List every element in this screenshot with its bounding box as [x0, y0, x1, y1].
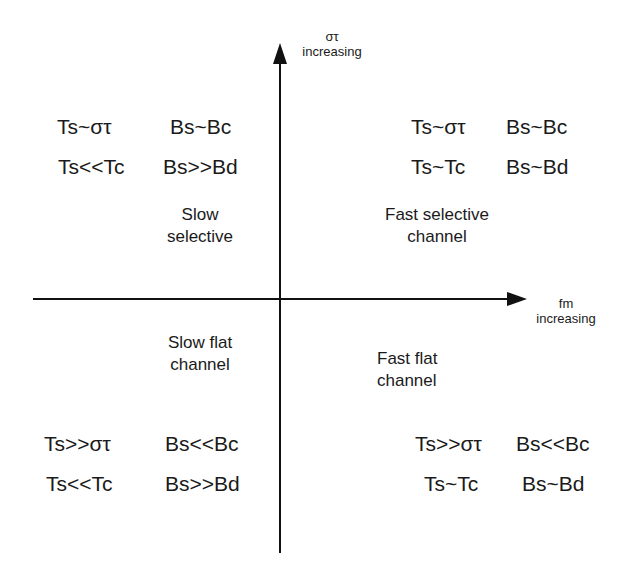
quadrant-title: Slow flat channel [140, 332, 260, 376]
ts-relation: Ts<<Tc [58, 156, 125, 177]
title-line: channel [362, 226, 512, 248]
ts-relation: Ts~στ [57, 116, 112, 137]
x-axis-text: increasing [526, 311, 606, 326]
bs-relation: Bs~Bd [522, 473, 584, 494]
x-axis-label: fm increasing [526, 296, 606, 326]
bs-relation: Bs>>Bd [165, 473, 240, 494]
y-axis-label: στ increasing [293, 29, 371, 59]
bs-relation: Bs<<Bc [165, 433, 239, 454]
bs-relation: Bs~Bc [170, 116, 231, 137]
quadrant-title: Fast selective channel [362, 204, 512, 248]
title-line: Slow flat [140, 332, 260, 354]
ts-relation: Ts<<Tc [46, 473, 113, 494]
title-line: Fast selective [362, 204, 512, 226]
y-axis-arrow-icon [273, 43, 287, 64]
title-line: Fast flat [377, 348, 467, 370]
ts-relation: Ts~Tc [424, 473, 478, 494]
title-line: channel [140, 354, 260, 376]
y-axis-symbol: στ [293, 29, 371, 44]
bs-relation: Bs>>Bd [163, 156, 238, 177]
ts-relation: Ts>>στ [44, 433, 111, 454]
x-axis-symbol: fm [526, 296, 606, 311]
quadrant-title: Slow selective [145, 204, 255, 248]
bs-relation: Bs~Bd [506, 156, 568, 177]
title-line: Slow [145, 204, 255, 226]
bs-relation: Bs~Bc [506, 116, 567, 137]
bs-relation: Bs<<Bc [516, 433, 590, 454]
quadrant-title: Fast flat channel [377, 348, 467, 392]
title-line: selective [145, 226, 255, 248]
ts-relation: Ts~στ [411, 116, 466, 137]
ts-relation: Ts>>στ [415, 433, 482, 454]
x-axis-arrow-icon [507, 292, 527, 306]
y-axis-text: increasing [293, 44, 371, 59]
title-line: channel [377, 370, 467, 392]
ts-relation: Ts~Tc [411, 156, 465, 177]
